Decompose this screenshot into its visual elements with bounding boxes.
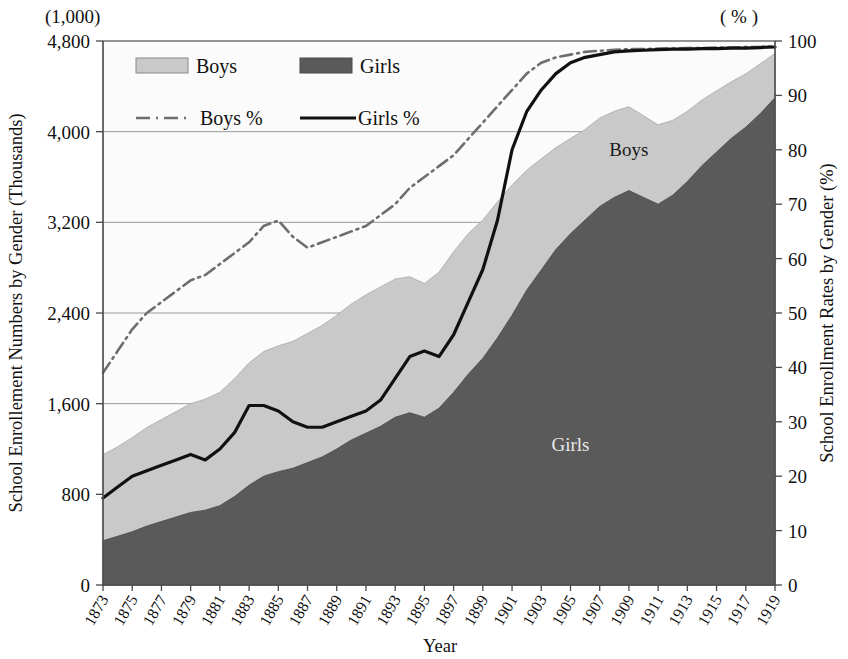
left-tick-label: 1,600 bbox=[47, 394, 90, 415]
right-tick-label: 20 bbox=[788, 466, 807, 487]
x-tick-label: 1911 bbox=[636, 592, 666, 628]
x-tick-label: 1915 bbox=[694, 592, 725, 628]
x-tick-label: 1909 bbox=[607, 592, 638, 628]
left-axis-title: School Enrollement Numbers by Gender (Th… bbox=[6, 113, 27, 512]
x-tick-label: 1913 bbox=[665, 592, 696, 628]
x-axis-tick-labels: 1873187518771879188118831885188718891891… bbox=[81, 592, 784, 628]
x-tick-label: 1919 bbox=[753, 592, 784, 628]
x-tick-label: 1891 bbox=[344, 592, 375, 628]
x-tick-label: 1897 bbox=[431, 592, 462, 628]
right-tick-label: 30 bbox=[788, 412, 807, 433]
x-tick-label: 1907 bbox=[578, 592, 609, 628]
x-tick-label: 1881 bbox=[198, 592, 229, 628]
x-tick-label: 1879 bbox=[169, 592, 200, 628]
right-tick-label: 0 bbox=[788, 575, 798, 596]
x-tick-label: 1895 bbox=[402, 592, 433, 628]
right-tick-label: 60 bbox=[788, 249, 807, 270]
x-tick-label: 1905 bbox=[548, 592, 579, 628]
legend-label-girls-pct: Girls % bbox=[358, 107, 420, 129]
right-axis-unit-note: ( % ) bbox=[720, 6, 758, 28]
left-tick-label: 800 bbox=[62, 484, 91, 505]
x-tick-label: 1899 bbox=[461, 592, 492, 628]
chart-figure: Boys Girls 08001,6002,4003,2004,0004,800… bbox=[0, 0, 848, 659]
x-tick-label: 1889 bbox=[315, 592, 346, 628]
x-tick-label: 1877 bbox=[139, 592, 170, 628]
legend-label-boys-pct: Boys % bbox=[200, 107, 263, 130]
right-tick-label: 40 bbox=[788, 357, 807, 378]
x-tick-label: 1893 bbox=[373, 592, 404, 628]
right-tick-label: 70 bbox=[788, 194, 807, 215]
legend-swatch-boys bbox=[136, 58, 188, 73]
left-tick-label: 4,000 bbox=[47, 122, 90, 143]
right-tick-label: 100 bbox=[788, 31, 817, 52]
enrollment-area-chart: Boys Girls 08001,6002,4003,2004,0004,800… bbox=[0, 0, 848, 659]
x-tick-label: 1873 bbox=[81, 592, 112, 628]
x-axis-ticks bbox=[103, 585, 775, 591]
x-tick-label: 1887 bbox=[285, 592, 316, 628]
left-tick-label: 3,200 bbox=[47, 212, 90, 233]
inplot-label-boys: Boys bbox=[609, 139, 648, 160]
x-axis-title: Year bbox=[423, 636, 457, 656]
left-tick-label: 4,800 bbox=[47, 31, 90, 52]
legend-label-boys: Boys bbox=[196, 55, 237, 78]
right-axis-title: School Enrollment Rates by Gender (%) bbox=[817, 163, 838, 463]
left-axis-ticks: 08001,6002,4003,2004,0004,800 bbox=[47, 31, 103, 596]
left-tick-label: 0 bbox=[81, 575, 91, 596]
left-tick-label: 2,400 bbox=[47, 303, 90, 324]
right-axis-ticks: 0102030405060708090100 bbox=[775, 31, 817, 596]
right-tick-label: 80 bbox=[788, 140, 807, 161]
x-tick-label: 1883 bbox=[227, 592, 258, 628]
x-tick-label: 1903 bbox=[519, 592, 550, 628]
x-tick-label: 1901 bbox=[490, 592, 521, 628]
legend-swatch-girls bbox=[300, 58, 352, 73]
x-tick-label: 1875 bbox=[110, 592, 141, 628]
right-tick-label: 50 bbox=[788, 303, 807, 324]
x-tick-label: 1885 bbox=[256, 592, 287, 628]
x-tick-label: 1917 bbox=[724, 592, 755, 628]
left-axis-unit-note: (1,000) bbox=[45, 6, 100, 28]
right-tick-label: 90 bbox=[788, 85, 807, 106]
inplot-label-girls: Girls bbox=[551, 434, 589, 455]
right-tick-label: 10 bbox=[788, 521, 807, 542]
legend-label-girls: Girls bbox=[360, 55, 400, 77]
